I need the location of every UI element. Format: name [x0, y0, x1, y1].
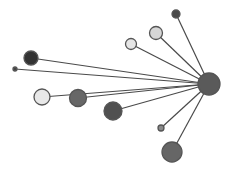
node-n7	[150, 27, 163, 40]
edge-n2	[31, 58, 209, 84]
node-n1	[13, 67, 17, 71]
node-n10	[162, 142, 182, 162]
edge-n1	[15, 69, 209, 84]
node-n6	[126, 39, 137, 50]
node-n5	[104, 102, 122, 120]
network-diagram	[0, 0, 234, 172]
edge-n4	[78, 84, 209, 98]
node-n3	[34, 89, 50, 105]
node-n9	[158, 125, 164, 131]
node-n2	[24, 51, 38, 65]
node-n8	[172, 10, 180, 18]
hub-node	[198, 73, 220, 95]
node-n4	[70, 90, 87, 107]
edges	[15, 14, 209, 152]
